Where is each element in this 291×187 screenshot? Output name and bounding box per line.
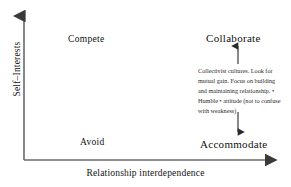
- quadrant-label-avoid: Avoid: [80, 137, 105, 147]
- quadrant-label-collaborate: Collaborate: [206, 32, 261, 44]
- diagram-canvas: Compete Collaborate Avoid Accommodate Co…: [0, 0, 291, 187]
- quadrant-label-accommodate: Accommodate: [200, 138, 267, 150]
- y-axis-label-wrapper: Self–Interests: [6, 19, 20, 119]
- quadrant-label-compete: Compete: [68, 34, 104, 44]
- y-axis-label: Self–Interests: [12, 41, 22, 96]
- annotation-text: Collectivist cultures. Look for mutual g…: [198, 66, 282, 116]
- x-axis-label: Relationship interdependence: [0, 168, 291, 178]
